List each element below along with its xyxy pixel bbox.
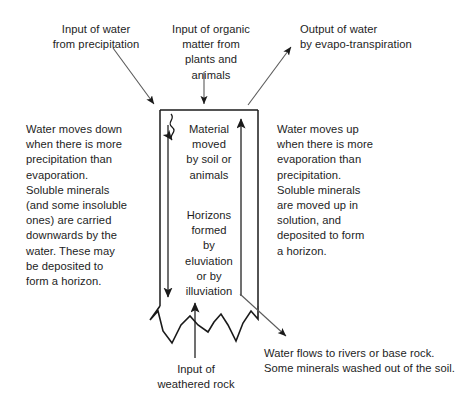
precipitation-input-arrow [113,48,154,104]
label-organic-matter-input: Input of organic matter from plants and … [152,22,270,83]
weathered-rock-jagged-edge [150,306,258,343]
label-downward-water-movement: Water moves down when there is more prec… [26,122,158,289]
water-outflow-arrow [240,294,286,336]
label-evapotranspiration-output: Output of water by evapo-transpiration [300,22,460,52]
soil-system-diagram: Input of water from precipitation Input … [0,0,475,409]
label-material-moved: Material moved by soil or animals [168,122,250,183]
label-water-outflow: Water flows to rivers or base rock. Some… [264,346,472,376]
label-horizons-formed: Horizons formed by eluviation or by illu… [168,208,250,299]
label-weathered-rock-input: Input of weathered rock [150,362,242,392]
label-precipitation-input: Input of water from precipitation [24,22,168,52]
label-upward-water-movement: Water moves up when there is more evapor… [277,122,427,259]
